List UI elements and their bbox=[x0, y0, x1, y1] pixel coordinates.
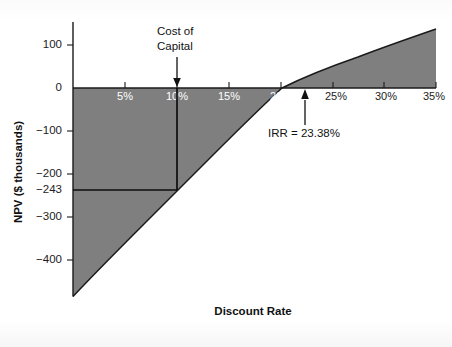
chart-plot-area bbox=[73, 29, 436, 297]
y-tick-label-neg200: −200 bbox=[36, 167, 62, 179]
npv-profile-chart: 100 0 −100 −200 −243 −300 −400 5% 10% 15… bbox=[0, 0, 452, 347]
y-tick-label-neg243: −243 bbox=[36, 183, 62, 195]
y-axis-tick-labels: 100 0 −100 −200 −243 −300 −400 bbox=[36, 38, 62, 265]
npv-area-fill bbox=[73, 29, 436, 297]
cost-of-capital-label-line1: Cost of bbox=[157, 25, 194, 37]
y-axis-ticks bbox=[67, 45, 73, 260]
x-tick-label-25: 25% bbox=[325, 90, 347, 102]
x-tick-label-20: 20% bbox=[270, 90, 292, 102]
y-tick-label-neg100: −100 bbox=[36, 124, 62, 136]
y-tick-label-neg300: −300 bbox=[36, 210, 62, 222]
cost-of-capital-arrow-head bbox=[173, 78, 181, 87]
x-tick-label-5: 5% bbox=[117, 90, 133, 102]
x-axis-tick-labels: 5% 10% 15% 20% 25% 30% 35% bbox=[117, 90, 445, 102]
x-axis-title: Discount Rate bbox=[214, 305, 291, 317]
x-tick-label-30: 30% bbox=[375, 90, 397, 102]
y-axis-title: NPV ($ thousands) bbox=[12, 121, 24, 223]
npv-profile-figure: 100 0 −100 −200 −243 −300 −400 5% 10% 15… bbox=[0, 0, 452, 347]
irr-label: IRR = 23.38% bbox=[268, 127, 340, 139]
x-tick-label-15: 15% bbox=[218, 90, 240, 102]
cost-of-capital-annotation: Cost of Capital bbox=[157, 25, 194, 87]
x-tick-label-35: 35% bbox=[423, 90, 445, 102]
y-tick-label-100: 100 bbox=[43, 38, 62, 50]
irr-arrow-head bbox=[301, 89, 309, 99]
y-tick-label-neg400: −400 bbox=[36, 253, 62, 265]
y-tick-label-0: 0 bbox=[56, 81, 62, 93]
cost-of-capital-label-line2: Capital bbox=[157, 40, 193, 52]
